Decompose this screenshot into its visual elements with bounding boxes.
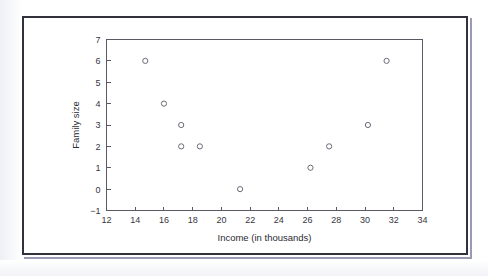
data-point	[365, 122, 370, 127]
data-point	[308, 165, 313, 170]
data-point	[197, 144, 202, 149]
data-point	[384, 58, 389, 63]
plot-svg: 121416182022242628303234−101234567Income…	[0, 0, 488, 276]
y-tick-label: 4	[95, 99, 100, 109]
x-tick-label: 34	[417, 215, 427, 225]
y-tick-label: 3	[95, 120, 100, 130]
x-tick-label: 26	[303, 215, 313, 225]
x-axis-title: Income (in thousands)	[218, 232, 312, 243]
x-tick-label: 14	[130, 215, 140, 225]
y-tick-label: 1	[95, 163, 100, 173]
x-tick-label: 28	[331, 215, 341, 225]
x-tick-label: 12	[101, 215, 111, 225]
x-tick-label: 30	[360, 215, 370, 225]
data-point	[143, 58, 148, 63]
plot-frame	[107, 40, 423, 211]
x-tick-label: 20	[216, 215, 226, 225]
y-tick-label: 7	[95, 35, 100, 45]
x-tick-label: 16	[159, 215, 169, 225]
data-point	[179, 144, 184, 149]
x-tick-label: 32	[389, 215, 399, 225]
data-point	[179, 122, 184, 127]
y-tick-label: 6	[95, 56, 100, 66]
y-tick-label: 5	[95, 78, 100, 88]
data-point	[237, 187, 242, 192]
y-axis-title: Family size	[70, 101, 81, 149]
y-tick-label: 0	[95, 185, 100, 195]
scatter-plot: 121416182022242628303234−101234567Income…	[0, 0, 488, 276]
y-tick-label: −1	[90, 206, 100, 216]
x-tick-label: 22	[245, 215, 255, 225]
y-tick-label: 2	[95, 142, 100, 152]
x-tick-label: 18	[188, 215, 198, 225]
data-point	[161, 101, 166, 106]
data-point	[327, 144, 332, 149]
x-tick-label: 24	[274, 215, 284, 225]
